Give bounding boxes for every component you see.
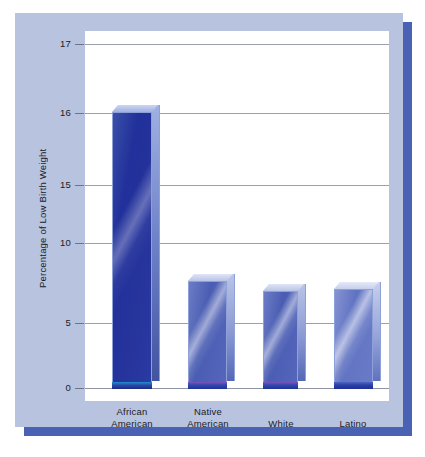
- bar-african-american: [112, 112, 152, 388]
- bar-front-face: [334, 289, 373, 388]
- bar-top-face: [263, 284, 304, 291]
- bar-bottom-face: [188, 382, 227, 389]
- y-tick-label-5: 5: [51, 318, 71, 328]
- y-tick-label-15: 15: [51, 180, 71, 190]
- bar-side-face: [373, 282, 381, 381]
- tick-mark-16: [75, 113, 84, 114]
- bar-bottom-face: [263, 382, 298, 389]
- bar-native-american: [188, 281, 227, 388]
- tick-mark-0: [75, 388, 84, 389]
- plot-area: [85, 31, 389, 401]
- y-axis-title: Percentage of Low Birth Weight: [37, 123, 51, 313]
- y-tick-label-10: 10: [51, 238, 71, 248]
- bar-side-face: [227, 274, 235, 381]
- category-label-african-american: AfricanAmerican: [89, 406, 175, 429]
- bar-top-face: [334, 282, 379, 289]
- bar-bottom-face: [112, 382, 152, 389]
- bar-front-face: [112, 112, 152, 388]
- category-label-line1: Native: [165, 406, 251, 418]
- y-tick-label-16: 16: [51, 108, 71, 118]
- bar-white: [263, 291, 298, 388]
- tick-mark-17: [75, 44, 84, 45]
- category-label-line2: American: [89, 418, 175, 430]
- chart-card: Percentage of Low Birth Weight 171615105…: [15, 13, 403, 427]
- tick-mark-5: [75, 323, 84, 324]
- gridline-17: [85, 44, 389, 45]
- bar-top-face: [188, 274, 233, 281]
- y-tick-label-17: 17: [51, 39, 71, 49]
- bar-top-face: [112, 105, 158, 112]
- chart-screenshot: Percentage of Low Birth Weight 171615105…: [0, 0, 425, 457]
- category-label-line1: African: [89, 406, 175, 418]
- bar-bottom-face: [334, 382, 373, 389]
- bar-side-face: [298, 284, 306, 381]
- bar-front-face: [188, 281, 227, 388]
- bar-front-face: [263, 291, 298, 388]
- tick-mark-15: [75, 185, 84, 186]
- bar-latino: [334, 289, 373, 388]
- tick-mark-10: [75, 243, 84, 244]
- y-tick-label-0: 0: [51, 383, 71, 393]
- bar-side-face: [152, 105, 160, 381]
- category-label-latino: Latino: [310, 418, 396, 430]
